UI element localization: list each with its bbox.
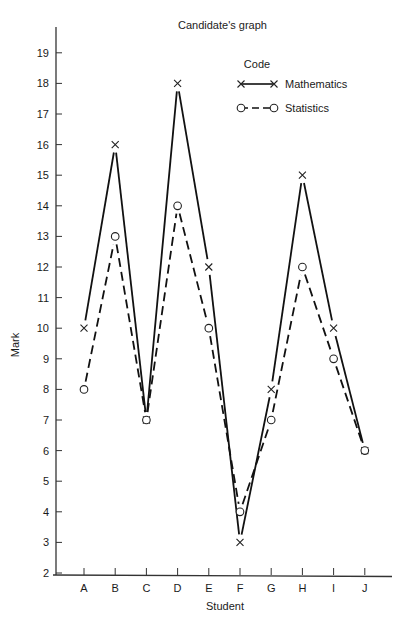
x-axis-ticks: ABCDEFGHIJ: [80, 568, 367, 594]
x-tick-label: E: [205, 582, 212, 594]
x-axis-line: [53, 575, 392, 577]
circle-marker-icon: [111, 233, 119, 241]
series-segment: [85, 152, 114, 320]
y-tick-label: 8: [43, 383, 49, 395]
x-marker-icon: [268, 386, 275, 393]
y-tick-label: 2: [43, 567, 49, 579]
series-segment: [305, 275, 331, 352]
legend-title: Code: [244, 58, 270, 70]
series-mathematics: [81, 80, 369, 546]
circle-marker-icon: [361, 447, 369, 455]
series-segment: [210, 336, 239, 504]
x-marker-icon: [330, 325, 337, 332]
legend-label: Mathematics: [285, 78, 348, 90]
series-segment: [210, 275, 239, 535]
y-tick-label: 7: [43, 414, 49, 426]
x-tick-label: H: [298, 582, 306, 594]
series-segment: [272, 183, 301, 381]
legend-entry-mathematics: Mathematics: [238, 78, 348, 90]
x-marker-icon: [299, 172, 306, 179]
x-tick-label: C: [142, 582, 150, 594]
y-tick-label: 12: [37, 261, 49, 273]
y-axis-ticks: 2345678910111213141516171819: [37, 47, 62, 579]
series-segment: [179, 91, 208, 259]
x-marker-icon: [112, 141, 119, 148]
series-segment: [304, 183, 332, 320]
series-segment: [117, 244, 146, 412]
circle-marker-icon: [267, 416, 275, 424]
x-marker-icon: [81, 325, 88, 332]
y-tick-label: 11: [38, 292, 49, 304]
x-marker-icon: [237, 539, 244, 546]
line-chart: 2345678910111213141516171819 ABCDEFGHIJ …: [0, 0, 407, 619]
y-tick-label: 3: [43, 536, 49, 548]
data-series: [80, 80, 368, 546]
y-tick-label: 19: [37, 47, 49, 59]
circle-marker-icon: [205, 324, 213, 332]
x-tick-label: F: [237, 582, 244, 594]
x-tick-label: I: [332, 582, 335, 594]
circle-marker-icon: [143, 416, 151, 424]
y-tick-label: 17: [37, 108, 49, 120]
circle-marker-icon: [174, 202, 182, 210]
circle-marker-icon: [330, 355, 338, 363]
x-tick-label: G: [267, 582, 276, 594]
circle-marker-icon: [236, 508, 244, 516]
series-segment: [242, 397, 270, 534]
x-tick-label: D: [174, 582, 182, 594]
y-tick-label: 16: [37, 139, 49, 151]
x-tick-label: J: [362, 582, 368, 594]
circle-marker-icon: [237, 104, 245, 112]
y-tick-label: 10: [37, 322, 49, 334]
x-tick-label: B: [112, 582, 119, 594]
x-marker-icon: [174, 80, 181, 87]
axes: [53, 27, 392, 577]
series-segment: [336, 336, 363, 443]
y-tick-label: 15: [37, 169, 49, 181]
y-tick-label: 13: [37, 230, 49, 242]
series-segment: [336, 366, 362, 443]
y-tick-label: 14: [37, 200, 49, 212]
y-tick-label: 9: [43, 353, 49, 365]
series-segment: [86, 244, 114, 381]
y-tick-label: 6: [43, 445, 49, 457]
x-tick-label: A: [80, 582, 88, 594]
legend-label: Statistics: [285, 102, 330, 114]
circle-marker-icon: [299, 263, 307, 271]
series-segment: [147, 91, 177, 412]
legend-entry-statistics: Statistics: [237, 102, 329, 114]
series-segment: [116, 153, 145, 413]
circle-marker-icon: [270, 104, 278, 112]
y-tick-label: 18: [37, 77, 49, 89]
x-axis-label: Student: [206, 600, 244, 612]
circle-marker-icon: [80, 386, 88, 394]
x-marker-icon: [205, 264, 212, 271]
legend: CodeMathematicsStatistics: [237, 58, 348, 114]
series-statistics: [80, 202, 368, 516]
y-tick-label: 5: [43, 475, 49, 487]
y-tick-label: 4: [43, 506, 49, 518]
y-axis-label: Mark: [9, 332, 21, 357]
